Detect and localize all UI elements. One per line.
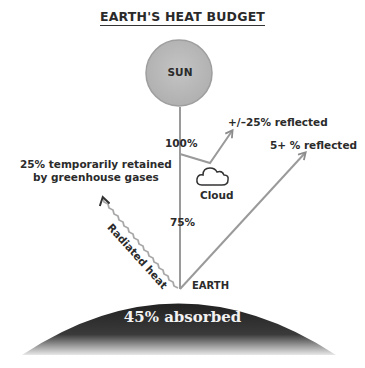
greenhouse-retained-label: 25% temporarily retained by greenhouse g… (20, 158, 172, 184)
absorbed-label: 45% absorbed (0, 308, 365, 326)
radiated-heat-ray (103, 198, 178, 288)
cloud-label: Cloud (200, 189, 234, 201)
incoming-percent-label: 100% (165, 137, 197, 149)
cloud-icon (197, 168, 228, 185)
transmitted-percent-label: 75% (170, 216, 195, 228)
cloud-reflected-label: +/–25% reflected (228, 116, 328, 128)
sun-label: SUN (160, 66, 200, 78)
earth-label: EARTH (192, 280, 229, 291)
surface-reflected-label: 5+ % reflected (270, 139, 357, 151)
surface-reflected-ray (180, 153, 305, 289)
